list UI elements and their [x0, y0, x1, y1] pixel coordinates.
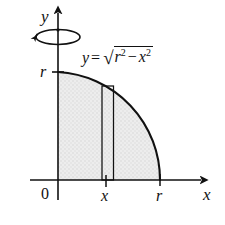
equation-radicand: r2−x2 — [114, 46, 153, 66]
radical-sign-icon: √ — [103, 47, 113, 68]
x-tick-label-r: r — [156, 188, 162, 204]
equation-equals: = — [89, 49, 102, 66]
radicand-second-exponent: 2 — [146, 47, 151, 58]
y-tick-label-r: r — [40, 64, 46, 80]
revolution-dot-icon — [56, 28, 59, 31]
radicand-operator: − — [126, 48, 139, 65]
revolution-arrowhead-icon — [35, 34, 38, 38]
quarter-circle-diagram: y x 0 r x r y=√r2−x2 — [0, 0, 225, 225]
curve-equation: y=√r2−x2 — [82, 46, 153, 68]
radicand-second-base: x — [139, 48, 146, 65]
x-axis-label: x — [203, 186, 211, 203]
equation-radical: √r2−x2 — [102, 46, 153, 68]
diagram-canvas — [0, 0, 225, 225]
x-tick-label-x: x — [101, 188, 108, 204]
origin-label: 0 — [41, 186, 49, 202]
y-axis-label: y — [41, 8, 49, 25]
